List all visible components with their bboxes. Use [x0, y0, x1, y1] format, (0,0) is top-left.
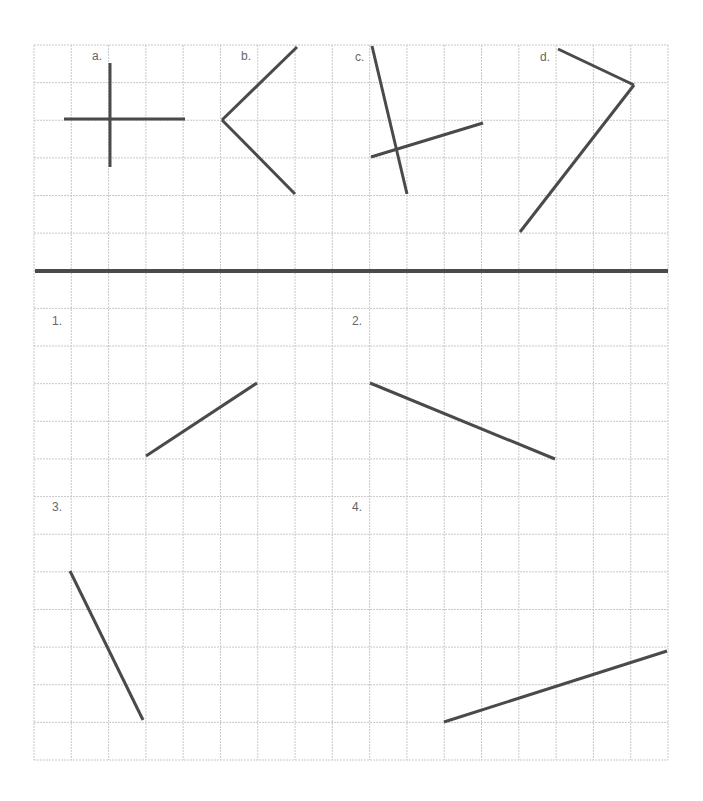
grid-canvas — [0, 0, 703, 801]
figure-label-a: a. — [92, 49, 102, 63]
line-segment — [371, 123, 483, 157]
figure-label-c: c. — [355, 50, 364, 64]
line-segment — [70, 571, 143, 720]
line-segment — [558, 49, 634, 85]
line-segment — [222, 120, 295, 194]
problem-label-1: 1. — [52, 314, 62, 328]
figure-label-d: d. — [540, 50, 550, 64]
line-segment — [222, 47, 297, 120]
problem-label-2: 2. — [352, 314, 362, 328]
line-segment — [520, 85, 634, 232]
problem-label-3: 3. — [52, 500, 62, 514]
line-segment — [146, 383, 257, 456]
problem-label-4: 4. — [352, 500, 362, 514]
figure-label-b: b. — [241, 49, 251, 63]
grid-lines — [34, 45, 668, 760]
line-segment — [444, 651, 667, 722]
